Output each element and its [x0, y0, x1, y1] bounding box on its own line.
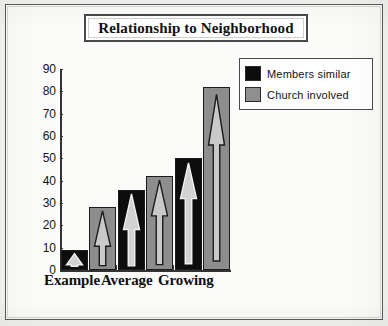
bar-example-church-involved	[89, 207, 116, 270]
bar-growing-church-involved	[203, 87, 230, 270]
bar-example-members-similar	[61, 250, 88, 270]
x-axis-group-tick	[173, 265, 174, 272]
x-axis-group-tick	[116, 265, 117, 272]
bar-arrow-icon	[119, 191, 144, 269]
bar-arrow-icon	[62, 251, 87, 269]
plot-area: 0102030405060708090 ExampleAverageGrowin…	[0, 0, 388, 326]
bar-average-church-involved	[146, 176, 173, 270]
bar-average-members-similar	[118, 190, 145, 270]
x-category-label-example: Example	[44, 272, 100, 289]
chart-title: Relationship to Neighborhood	[98, 20, 293, 37]
x-category-label-average: Average	[101, 272, 153, 289]
bar-arrow-icon	[176, 159, 201, 269]
x-category-label-growing: Growing	[158, 272, 214, 289]
bar-arrow-icon	[147, 177, 172, 269]
bar-arrow-icon	[90, 208, 115, 269]
bar-arrow-icon	[204, 88, 229, 269]
bar-growing-members-similar	[175, 158, 202, 270]
chart-screenshot: Relationship to Neighborhood Members sim…	[0, 0, 388, 326]
